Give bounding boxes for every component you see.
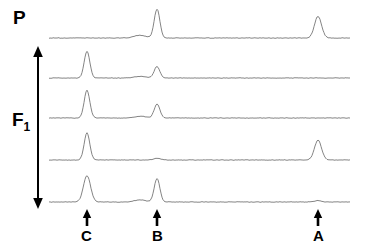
spectra-figure: P F1 C B A [0,0,365,250]
spectrum-trace [49,133,350,161]
spectrum-trace [49,9,350,38]
marker-a [314,209,322,226]
f1-axis-arrow [33,46,43,209]
f1-axis-label-text: F [12,109,24,130]
spectrum-trace [49,51,350,78]
peak-label-b: B [152,228,163,243]
marker-c [83,209,91,226]
marker-b [153,209,161,226]
spectrum-trace [49,90,350,118]
peak-label-a: A [313,228,324,243]
spectra-plot [0,0,365,250]
spectrum-trace [49,176,350,202]
projection-label: P [13,8,26,27]
spectra-traces [49,9,350,202]
f1-axis-label: F1 [12,110,30,133]
f1-axis-label-subscript: 1 [24,120,31,134]
peak-label-c: C [81,228,92,243]
peak-marker-arrows [83,209,322,226]
